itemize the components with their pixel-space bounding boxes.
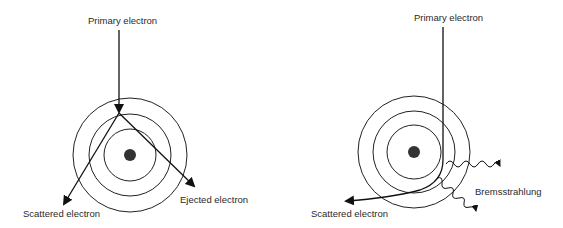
nucleus — [408, 146, 420, 158]
scattered-electron-label: Scattered electron — [311, 208, 388, 219]
electron-interaction-diagrams: Primary electron Scattered electron Ejec… — [0, 0, 563, 228]
bremsstrahlung-label: Bremsstrahlung — [475, 186, 542, 197]
right-atom-diagram: Primary electron Scattered electron Brem… — [311, 12, 542, 219]
left-atom-diagram: Primary electron Scattered electron Ejec… — [23, 15, 248, 219]
ejected-electron-label: Ejected electron — [180, 194, 248, 205]
scattered-electron-label: Scattered electron — [23, 208, 100, 219]
scattered-electron-arrow — [64, 113, 119, 204]
primary-electron-label: Primary electron — [88, 15, 157, 26]
nucleus — [124, 149, 136, 161]
bremsstrahlung-wave-2 — [437, 178, 476, 211]
primary-electron-label: Primary electron — [414, 12, 483, 23]
